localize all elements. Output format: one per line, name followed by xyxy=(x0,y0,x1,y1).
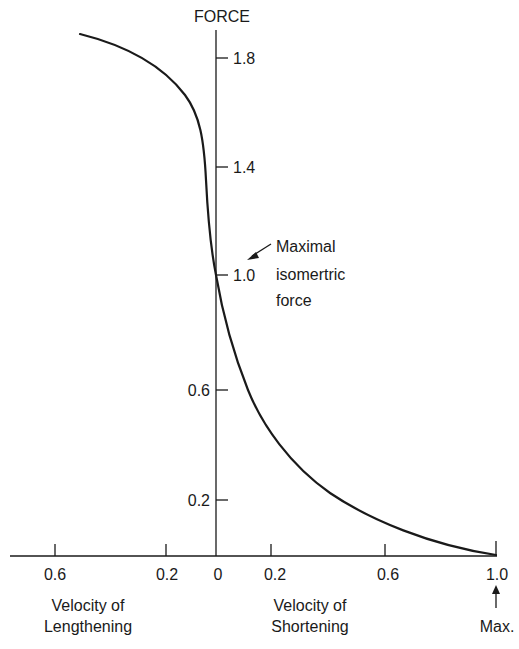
x-title-lengthening-line2: Lengthening xyxy=(44,618,132,635)
x-tick-label-zero: 0 xyxy=(214,566,223,583)
x-tick-label-lengthening-0.6: 0.6 xyxy=(44,566,66,583)
y-axis-title: FORCE xyxy=(194,8,250,25)
x-title-shortening-line2: Shortening xyxy=(271,618,348,635)
force-velocity-chart: FORCE 1.8 1.4 1.0 0.6 0.2 0.6 0.2 0 0.2 … xyxy=(0,0,519,649)
x-tick-label-lengthening-0.2: 0.2 xyxy=(156,566,178,583)
max-label: Max. xyxy=(480,618,515,635)
x-tick-label-shortening-0.6: 0.6 xyxy=(377,566,399,583)
x-title-lengthening-line1: Velocity of xyxy=(52,597,125,614)
y-tick-label-0.6: 0.6 xyxy=(188,382,210,399)
y-tick-label-1.4: 1.4 xyxy=(233,159,255,176)
y-tick-label-0.2: 0.2 xyxy=(188,492,210,509)
annotation-line-3: force xyxy=(276,292,312,309)
x-tick-label-shortening-1.0: 1.0 xyxy=(486,566,508,583)
annotation-line-1: Maximal xyxy=(276,238,336,255)
y-tick-label-1.0: 1.0 xyxy=(233,267,255,284)
y-tick-label-1.8: 1.8 xyxy=(233,50,255,67)
x-ticks xyxy=(55,541,496,556)
x-tick-label-shortening-0.2: 0.2 xyxy=(264,566,286,583)
annotation-line-2: isomertric xyxy=(276,266,345,283)
x-title-shortening-line1: Velocity of xyxy=(274,597,347,614)
max-arrow-head xyxy=(492,585,500,594)
